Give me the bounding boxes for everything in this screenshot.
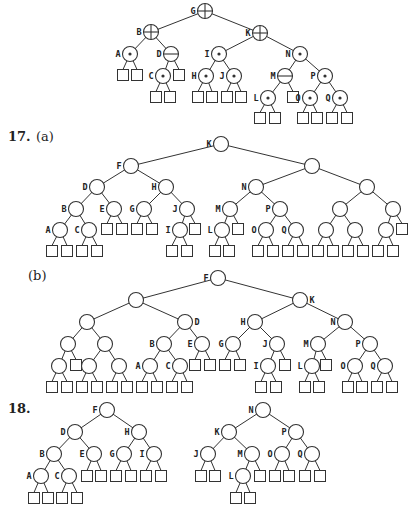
external-node-square [165, 92, 176, 103]
tree-node-D: D [156, 47, 178, 62]
external-node-square [245, 493, 256, 504]
node-label: P [281, 427, 286, 437]
node-circle [157, 337, 172, 352]
node-label: L [253, 93, 258, 103]
node-label: J [193, 449, 198, 459]
node-label: C [165, 361, 170, 371]
node-circle [90, 180, 105, 195]
external-node-square [29, 493, 40, 504]
tree-node-K: K [293, 293, 316, 308]
external-node-square [233, 224, 244, 235]
tree-17a: KFDHNBEGJMPACILOQ [45, 137, 407, 257]
node-label: J [172, 204, 177, 214]
external-node-square [314, 382, 325, 393]
tree-node-M: M [237, 447, 259, 462]
node-label: H [240, 317, 245, 327]
tree-node-L: L [253, 91, 275, 106]
tree-node-F: F [92, 403, 114, 418]
external-node-square [328, 246, 339, 257]
node-circle [201, 447, 216, 462]
tree-node-N: N [248, 403, 270, 418]
tree-edge [151, 11, 205, 32]
node-label: C [74, 225, 79, 235]
node-circle [180, 202, 195, 217]
tree-node [112, 359, 127, 374]
external-node-square [284, 471, 295, 482]
external-node-square [256, 382, 267, 393]
external-node-square [255, 471, 266, 482]
tree-node-J: J [262, 337, 284, 352]
external-node-square [205, 360, 216, 371]
tree-18-right: NKPJMOQL [193, 403, 325, 504]
node-circle [87, 447, 102, 462]
node-label: I [165, 225, 170, 235]
node-circle [379, 223, 394, 238]
node-label: G [190, 6, 195, 16]
node-label: M [215, 204, 220, 214]
tree-node-I: I [253, 359, 275, 374]
external-node-square [388, 246, 399, 257]
balance-dot-icon [338, 96, 341, 99]
external-node-square [118, 70, 129, 81]
node-label: O [267, 449, 272, 459]
external-node-square [357, 382, 368, 393]
external-node-square [312, 113, 323, 124]
tree-node-L: L [297, 359, 319, 374]
tree-node-I: I [139, 447, 161, 462]
external-node-square [196, 471, 207, 482]
tree-node-M: M [215, 202, 237, 217]
external-node-square [313, 246, 324, 257]
node-circle [259, 223, 274, 238]
balance-dot-icon [232, 74, 235, 77]
node-label: O [251, 225, 256, 235]
node-circle [305, 447, 320, 462]
node-circle [236, 469, 251, 484]
node-circle [100, 403, 115, 418]
external-node-square [270, 471, 281, 482]
node-circle [137, 202, 152, 217]
node-circle [82, 359, 97, 374]
external-node-square [193, 92, 204, 103]
node-circle [159, 180, 174, 195]
tree-node-C: C [165, 359, 187, 374]
tree-node-G: G [109, 447, 131, 462]
tree-node-I: I [165, 223, 187, 238]
external-node-square [372, 382, 383, 393]
external-node-square [182, 382, 193, 393]
external-node-square [47, 382, 58, 393]
external-node-square [72, 493, 83, 504]
node-circle [173, 223, 188, 238]
external-node-square [300, 382, 311, 393]
node-circle [98, 337, 113, 352]
tree-node-A: A [45, 223, 67, 238]
node-circle [273, 202, 288, 217]
tree-node-Q: Q [370, 359, 392, 374]
node-label: K [206, 139, 212, 149]
node-circle [275, 447, 290, 462]
node-label: F [203, 273, 208, 283]
tree-node-B: B [39, 447, 61, 462]
balance-dot-icon [217, 52, 220, 55]
node-label: C [148, 71, 153, 81]
external-node-square [122, 382, 133, 393]
node-circle [129, 293, 144, 308]
node-circle [360, 180, 375, 195]
node-label: G [129, 204, 134, 214]
tree-node-D: D [178, 315, 200, 330]
tree-node [348, 223, 363, 238]
external-node-square [137, 382, 148, 393]
node-circle [47, 447, 62, 462]
node-label: P [310, 71, 315, 81]
node-circle [117, 447, 132, 462]
node-circle [53, 223, 68, 238]
tree-node-B: B [136, 25, 158, 40]
balance-dot-icon [128, 52, 131, 55]
node-label: A [115, 49, 120, 59]
node-circle [223, 202, 238, 217]
external-node-square [298, 246, 309, 257]
tree-node-F: F [116, 159, 138, 174]
external-node-square [235, 360, 246, 371]
node-circle [147, 447, 162, 462]
tree-node-C: C [54, 469, 76, 484]
tree-node-D: D [82, 180, 104, 195]
